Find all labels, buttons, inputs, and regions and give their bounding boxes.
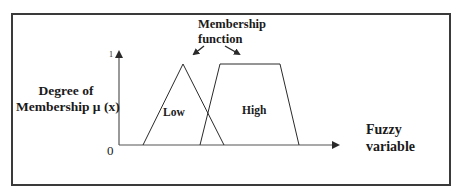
x-axis-label-line-1: Fuzzy	[366, 121, 415, 138]
x-axis-label: Fuzzy variable	[366, 121, 415, 155]
annotation-line-2: function	[198, 32, 266, 47]
high-set-label: High	[242, 103, 266, 117]
y-tick-max: 1	[109, 50, 113, 59]
annotation-line-1: Membership	[198, 17, 266, 32]
origin-label: 0	[107, 143, 114, 159]
y-axis-label-line-2: Membership μ (x)	[16, 99, 116, 115]
y-axis-label-line-1: Degree of	[16, 83, 116, 99]
x-axis-label-line-2: variable	[366, 138, 415, 155]
arrow-to-low	[194, 46, 204, 54]
arrow-to-high	[225, 46, 239, 54]
membership-function-annotation: Membership function	[198, 17, 266, 47]
low-set-label: Low	[163, 105, 185, 119]
y-axis-label: Degree of Membership μ (x)	[16, 83, 116, 115]
